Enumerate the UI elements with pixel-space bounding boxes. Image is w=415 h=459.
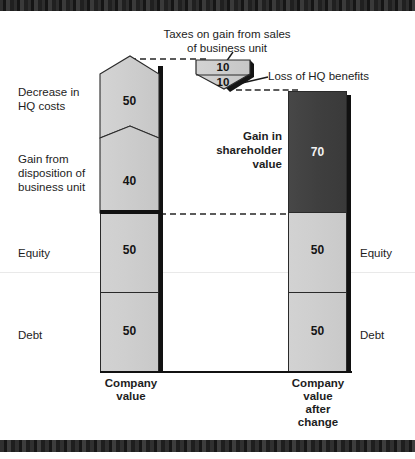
caption-company-value: Company value (86, 377, 176, 403)
page-edge-top (0, 0, 415, 11)
chart-baseline (100, 371, 352, 373)
label-gain-from-disposition: Gain from disposition of business unit (18, 152, 100, 194)
dash-connector-equity-line (160, 213, 296, 215)
left-bar-company-value[interactable]: 50 40 50 50 (100, 56, 162, 372)
page-edge-bottom (0, 440, 415, 452)
right-value-debt: 50 (288, 324, 347, 338)
label-left-debt: Debt (18, 328, 88, 342)
label-left-equity: Equity (18, 246, 88, 260)
right-bar-company-value-after[interactable]: 70 50 50 (288, 91, 350, 372)
label-right-equity: Equity (360, 246, 415, 260)
middle-value-taxes: 10 (196, 61, 250, 73)
left-value-gain-disposition: 40 (100, 174, 159, 188)
middle-value-hq-benefits: 10 (196, 76, 250, 88)
middle-adjustments-shield[interactable]: 10 10 (196, 58, 268, 102)
right-value-equity: 50 (288, 243, 347, 257)
page-edge-bottom-white (0, 452, 415, 459)
left-value-equity: 50 (100, 243, 159, 257)
caption-company-value-after-change: Company value after change (273, 377, 363, 429)
left-value-decrease-hq: 50 (100, 94, 159, 108)
label-decrease-hq-costs: Decrease in HQ costs (18, 85, 98, 113)
figure-canvas: Taxes on gain from sales of business uni… (0, 0, 415, 459)
hq-benefits-callout-label: Loss of HQ benefits (268, 69, 408, 83)
taxes-callout-label: Taxes on gain from sales of business uni… (152, 27, 302, 55)
label-gain-in-shareholder-value: Gain in shareholder value (186, 129, 282, 171)
label-right-debt: Debt (360, 328, 415, 342)
scan-seam (0, 272, 415, 273)
left-seg-gain-disposition-shape (100, 126, 160, 216)
right-value-gain-shareholder: 70 (288, 145, 347, 159)
left-value-debt: 50 (100, 324, 159, 338)
